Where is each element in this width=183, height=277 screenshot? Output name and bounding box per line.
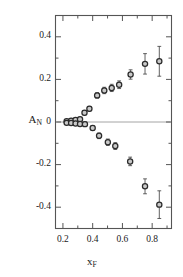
data-point [128, 70, 133, 79]
y-tick-label: 0 [20, 116, 51, 126]
series-positive-branch [64, 46, 162, 123]
x-axis-label: xF [72, 255, 112, 269]
data-point [142, 179, 147, 194]
figure-container: AN xF -0.4-0.200.20.40.20.40.60.8 [0, 0, 183, 277]
y-tick-label: 0.2 [20, 73, 51, 83]
x-tick-label: 0.6 [106, 234, 138, 244]
data-point [113, 143, 118, 150]
data-point [142, 54, 147, 74]
data-point [82, 110, 87, 115]
data-point [90, 125, 95, 130]
x-axis-label-subscript: F [93, 260, 97, 269]
y-tick-label: -0.2 [20, 158, 51, 168]
x-tick-label: 0.2 [47, 234, 79, 244]
x-tick-label: 0.4 [77, 234, 109, 244]
x-tick-label: 0.8 [136, 234, 168, 244]
data-point [109, 84, 114, 91]
data-point [157, 191, 162, 219]
data-point [117, 81, 122, 89]
data-point [102, 87, 107, 93]
y-tick-label: -0.4 [20, 201, 51, 211]
data-point [95, 93, 100, 99]
data-point [87, 106, 92, 111]
data-point [157, 46, 162, 76]
data-point [96, 133, 101, 139]
data-point [82, 122, 87, 127]
data-point [105, 139, 110, 145]
data-point [128, 157, 133, 166]
series-negative-branch [64, 120, 162, 218]
y-tick-label: 0.4 [20, 30, 51, 40]
